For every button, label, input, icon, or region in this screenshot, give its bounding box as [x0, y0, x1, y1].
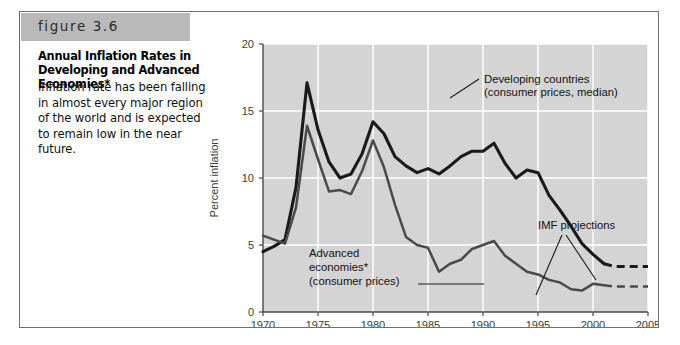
imf-projections-annotation: IMF projections	[538, 219, 616, 231]
x-tick-label-1985: 1985	[416, 319, 440, 327]
y-tick-label-15: 15	[242, 105, 254, 117]
y-tick-label-20: 20	[242, 38, 254, 50]
developing-annotation-line2: (consumer prices, median)	[484, 86, 618, 98]
figure-description: Inflation rate has been falling in almos…	[38, 80, 208, 158]
y-axis-title: Percent inflation	[208, 139, 220, 218]
x-tick-label-1995: 1995	[526, 319, 550, 327]
x-axis-tick-labels: 19701975198019851990199520002005	[251, 312, 658, 327]
y-tick-label-5: 5	[248, 239, 254, 251]
x-tick-label-1990: 1990	[471, 319, 495, 327]
y-axis-tick-labels: 05101520	[242, 38, 263, 318]
figure-caption-column: figure 3.6 Annual Inflation Rates in Dev…	[20, 12, 210, 327]
y-tick-label-0: 0	[248, 306, 254, 318]
x-tick-label-1980: 1980	[361, 319, 385, 327]
x-tick-label-2000: 2000	[581, 319, 605, 327]
figure-frame: figure 3.6 Annual Inflation Rates in Dev…	[19, 11, 659, 328]
advanced-annotation-line2: economies*	[309, 261, 369, 273]
x-tick-label-1970: 1970	[251, 319, 275, 327]
inflation-line-chart: 05101520 1970197519801985199019952000200…	[196, 17, 658, 327]
y-tick-label-10: 10	[242, 172, 254, 184]
developing-annotation-line1: Developing countries	[484, 73, 590, 85]
x-tick-label-1975: 1975	[306, 319, 330, 327]
advanced-annotation-line3: (consumer prices)	[309, 275, 400, 287]
figure-number-label: figure 3.6	[38, 18, 119, 34]
advanced-annotation-line1: Advanced	[309, 247, 359, 259]
imf-annotation-line1: IMF projections	[538, 219, 616, 231]
x-tick-label-2005: 2005	[636, 319, 658, 327]
chart-container: 05101520 1970197519801985199019952000200…	[196, 17, 658, 327]
